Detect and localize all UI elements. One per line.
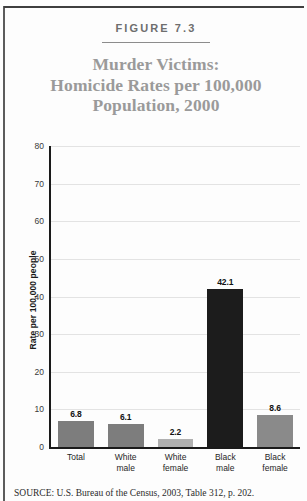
bar (158, 439, 194, 447)
x-axis-line (49, 447, 300, 449)
bar (257, 415, 293, 447)
figure-divider (102, 42, 210, 43)
figure-card: FIGURE 7.3 Murder Victims: Homicide Rate… (0, 0, 307, 501)
figure-top-rule (4, 6, 304, 8)
figure-title-line-3: Population, 2000 (12, 95, 300, 116)
source-note: SOURCE: U.S. Bureau of the Census, 2003,… (14, 488, 304, 498)
bar-value-label: 6.1 (120, 412, 132, 422)
bar-value-label: 6.8 (70, 409, 82, 419)
y-tick-label: 10 (22, 404, 44, 414)
y-tick-label: 30 (22, 329, 44, 339)
bar-value-label: 2.2 (170, 427, 182, 437)
x-tick-label: Whitefemale (151, 452, 200, 474)
x-tick-label: Total (52, 452, 101, 474)
x-tick-label: Whitemale (101, 452, 150, 474)
bar-slot: 6.1 (101, 146, 150, 447)
y-tick-label: 40 (22, 292, 44, 302)
bar-slot: 6.8 (52, 146, 101, 447)
bar-slot: 2.2 (151, 146, 200, 447)
y-tick-label: 60 (22, 216, 44, 226)
bar-value-label: 42.1 (217, 277, 233, 287)
bar (108, 424, 144, 447)
bar-value-label: 8.6 (269, 403, 281, 413)
x-tick-label: Blackmale (201, 452, 250, 474)
bar-slot: 8.6 (251, 146, 300, 447)
figure-number: FIGURE 7.3 (12, 22, 300, 34)
y-tick-label: 0 (22, 442, 44, 452)
x-axis-labels: TotalWhitemaleWhitefemaleBlackmaleBlackf… (51, 452, 300, 474)
figure-title-line-2: Homicide Rates per 100,000 (12, 75, 300, 96)
x-tick-label: Blackfemale (251, 452, 300, 474)
y-tick-label: 70 (22, 179, 44, 189)
y-tick-label: 80 (22, 141, 44, 151)
bar (58, 421, 94, 447)
bar-slot: 42.1 (201, 146, 250, 447)
figure-header: FIGURE 7.3 Murder Victims: Homicide Rate… (12, 22, 300, 116)
figure-title-line-1: Murder Victims: (12, 54, 300, 75)
bar-series: 6.86.12.242.18.6 (51, 146, 300, 447)
figure-title: Murder Victims: Homicide Rates per 100,0… (12, 54, 300, 116)
y-tick-label: 20 (22, 367, 44, 377)
y-tick-label: 50 (22, 254, 44, 264)
chart-plot-area: Rate per 100,000 people 0102030405060708… (0, 140, 307, 480)
bar (207, 289, 243, 447)
